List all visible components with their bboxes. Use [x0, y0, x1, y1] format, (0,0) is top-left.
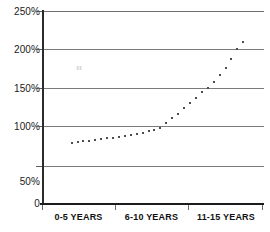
- x-axis-tick-label: 0-5 YEARS: [42, 212, 115, 223]
- y-axis-tick-label: 50%: [20, 177, 40, 187]
- data-point: [189, 102, 191, 104]
- data-point: [207, 87, 209, 89]
- data-point: [112, 137, 114, 139]
- scan-artifact: [76, 66, 83, 70]
- gridline: [42, 166, 264, 167]
- data-point: [130, 134, 132, 136]
- x-axis-tick-label: 6-10 YEARS: [115, 212, 188, 223]
- y-axis-labels: 250% 200% 150% 100% 50% 0: [0, 0, 40, 232]
- data-point: [213, 81, 215, 83]
- x-axis-tick-mark: [262, 205, 263, 210]
- y-axis-tick-label: 150%: [14, 84, 40, 94]
- data-point: [153, 129, 155, 131]
- data-point: [183, 107, 185, 109]
- data-point: [230, 58, 232, 60]
- data-point: [159, 127, 161, 129]
- gridline: [42, 11, 264, 12]
- y-axis-tick-label: 100%: [14, 122, 40, 132]
- data-point: [100, 138, 102, 140]
- x-axis-tick-label: 11-15 YEARS: [188, 212, 264, 223]
- plot-area: [42, 10, 264, 204]
- data-point: [242, 41, 244, 43]
- x-axis-tick-mark: [188, 205, 189, 210]
- data-point: [201, 91, 203, 93]
- gridline: [42, 126, 264, 127]
- data-point: [219, 74, 221, 76]
- data-point: [94, 139, 96, 141]
- y-axis-tick-label: 200%: [14, 45, 40, 55]
- gridline: [42, 88, 264, 89]
- data-point: [77, 141, 79, 143]
- data-point: [165, 122, 167, 124]
- data-point: [124, 135, 126, 137]
- data-point: [118, 136, 120, 138]
- y-axis-tick-label: 250%: [14, 7, 40, 17]
- data-point: [177, 113, 179, 115]
- x-axis-line: [40, 203, 264, 205]
- chart-container: 250% 200% 150% 100% 50% 0 0-5 YEARS 6-10…: [0, 0, 270, 232]
- data-point: [71, 142, 73, 144]
- gridline: [42, 49, 264, 50]
- x-axis-tick-mark: [115, 205, 116, 210]
- data-point: [82, 140, 84, 142]
- data-point: [195, 97, 197, 99]
- data-point: [148, 130, 150, 132]
- y-axis-line: [42, 10, 44, 205]
- data-point: [225, 67, 227, 69]
- data-point: [142, 132, 144, 134]
- data-point: [106, 137, 108, 139]
- data-point: [88, 140, 90, 142]
- data-point: [171, 117, 173, 119]
- data-point: [236, 48, 238, 50]
- data-point: [136, 133, 138, 135]
- x-axis-tick-mark: [42, 205, 43, 210]
